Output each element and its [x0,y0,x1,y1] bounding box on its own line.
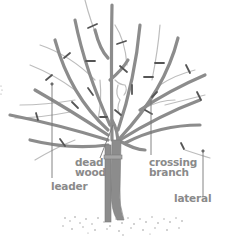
main-branches [10,5,205,150]
trunk [111,140,124,220]
label-dead-wood-line2: wood [75,167,97,177]
label-lateral: lateral [174,193,211,203]
label-dead-wood: dead wood [75,157,97,177]
tree-tie [104,155,122,159]
label-leader-line1: leader [51,181,87,191]
stray-marks [0,85,2,94]
label-crossing-branch: crossing branch [149,157,197,177]
label-lateral-line1: lateral [174,193,211,203]
label-leader: leader [51,181,87,191]
pruning-diagram: dead wood crossing branch leader lateral [0,0,227,243]
label-crossing-branch-line2: branch [149,167,197,177]
tree-illustration [0,0,227,243]
